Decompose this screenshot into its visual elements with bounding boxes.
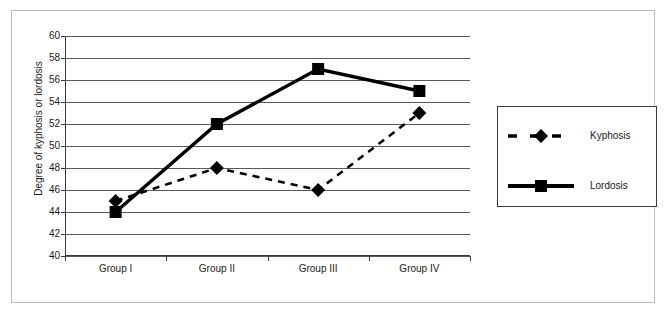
y-axis-tick-label: 58	[49, 53, 60, 63]
y-axis-tick-label: 42	[49, 229, 60, 239]
x-axis-tick-mark	[166, 256, 167, 261]
legend-swatch	[506, 123, 576, 149]
legend-label: Lordosis	[590, 173, 628, 199]
x-axis-tick-labels: Group IGroup IIGroup IIIGroup IV	[65, 263, 470, 281]
series-line	[116, 113, 420, 201]
series-layer	[65, 36, 470, 256]
y-axis-tick-label: 56	[49, 75, 60, 85]
square-marker-icon	[413, 85, 425, 97]
chart-legend: KyphosisLordosis	[497, 106, 657, 207]
square-marker-icon	[535, 180, 547, 192]
series-kyphosis	[109, 106, 427, 208]
y-axis-tick-label: 48	[49, 163, 60, 173]
legend-item-kyphosis[interactable]: Kyphosis	[498, 123, 656, 149]
y-axis-tick-label: 44	[49, 207, 60, 217]
legend-label: Kyphosis	[590, 123, 631, 149]
x-axis-tick-label: Group I	[99, 263, 132, 274]
square-marker-icon	[506, 173, 576, 199]
square-marker-icon	[211, 118, 223, 130]
diamond-marker-icon	[311, 183, 325, 197]
x-axis-tick-label: Group IV	[399, 263, 439, 274]
x-axis-tick-mark	[65, 256, 66, 261]
series-line	[116, 69, 420, 212]
chart-figure: Degree of kyphosis or lordosis 404244464…	[11, 10, 655, 303]
plot-area-wrapper: Degree of kyphosis or lordosis 404244464…	[12, 11, 482, 304]
series-lordosis	[110, 63, 426, 218]
x-axis-tick-label: Group III	[299, 263, 338, 274]
y-axis-tick-label: 50	[49, 141, 60, 151]
diamond-marker-icon	[534, 129, 548, 143]
diamond-marker-icon	[210, 161, 224, 175]
y-axis-tick-label: 60	[49, 31, 60, 41]
x-axis-tick-mark	[369, 256, 370, 261]
y-axis-tick-label: 46	[49, 185, 60, 195]
y-axis-tick-label: 40	[49, 251, 60, 261]
y-axis-tick-label: 52	[49, 119, 60, 129]
x-axis-tick-mark	[268, 256, 269, 261]
square-marker-icon	[110, 206, 122, 218]
square-marker-icon	[312, 63, 324, 75]
y-axis-tick-labels: 4042444648505254565860	[34, 28, 60, 257]
x-axis-tick-label: Group II	[199, 263, 235, 274]
legend-swatch	[506, 173, 576, 199]
y-axis-tick-label: 54	[49, 97, 60, 107]
x-axis-tick-mark	[470, 256, 471, 261]
plot-area	[65, 36, 470, 256]
diamond-marker-icon	[506, 123, 576, 149]
legend-item-lordosis[interactable]: Lordosis	[498, 173, 656, 199]
